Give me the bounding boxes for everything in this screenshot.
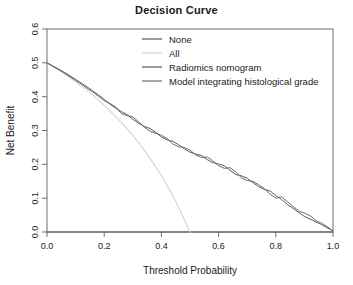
legend-layer: NoneAllRadiomics nomogramModel integrati… — [142, 34, 318, 87]
y-tick-label: 0.5 — [30, 57, 40, 70]
y-tick-label: 0.1 — [30, 192, 40, 205]
y-axis-label: Net Benefit — [5, 106, 16, 156]
x-tick-label: 1.0 — [327, 241, 340, 251]
y-tick-label: 0.2 — [30, 158, 40, 171]
series-line — [47, 63, 333, 231]
y-tick-label: 0.3 — [30, 124, 40, 137]
axes-layer: 0.00.20.40.60.81.00.00.10.20.30.40.50.6 — [30, 23, 339, 251]
series-line — [47, 63, 193, 239]
x-axis-label: Threshold Probability — [143, 265, 237, 276]
y-tick-label: 0.0 — [30, 226, 40, 239]
x-tick-label: 0.6 — [212, 241, 225, 251]
legend-label: Model integrating histological grade — [169, 76, 318, 87]
x-tick-label: 0.0 — [41, 241, 54, 251]
decision-curve-figure: Decision Curve 0.00.20.40.60.81.00.00.10… — [0, 0, 353, 285]
curves-layer — [47, 63, 333, 239]
x-tick-label: 0.8 — [270, 241, 283, 251]
chart-canvas: 0.00.20.40.60.81.00.00.10.20.30.40.50.6 … — [0, 0, 353, 285]
legend-label: Radiomics nomogram — [169, 62, 261, 73]
plot-frame — [47, 29, 333, 232]
y-tick-label: 0.6 — [30, 23, 40, 36]
x-tick-label: 0.4 — [155, 241, 168, 251]
y-tick-label: 0.4 — [30, 90, 40, 103]
legend-label: None — [169, 34, 192, 45]
legend-label: All — [169, 48, 180, 59]
x-tick-label: 0.2 — [98, 241, 111, 251]
